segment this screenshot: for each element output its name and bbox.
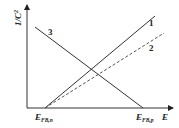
x-tick-efb-p: EFB,p: [135, 112, 154, 123]
mott-schottky-diagram: 1 2 3 1/C2 EFB,n EFB,p E: [0, 0, 179, 128]
y-axis-label: 1/C2: [13, 10, 23, 26]
curve-2: [45, 33, 164, 108]
curve-1: [45, 16, 155, 108]
curve-1-label: 1: [149, 18, 154, 28]
x-tick-efb-n: EFB,n: [34, 112, 53, 123]
curve-2-label: 2: [149, 43, 154, 53]
svg-text:1/C2: 1/C2: [13, 10, 23, 26]
x-axis-label: E: [161, 112, 168, 122]
curve-3-label: 3: [48, 27, 53, 37]
